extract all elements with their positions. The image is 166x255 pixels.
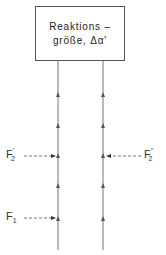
box-text-line1: Reaktions –: [49, 20, 111, 34]
label-sup: ': [13, 147, 14, 154]
f1-arrowhead-icon: [51, 216, 56, 220]
f2-prime-arrowhead-icon: [51, 154, 56, 158]
label-base: F: [6, 210, 13, 222]
reaction-quantity-box: Reaktions – größe, Δα': [35, 6, 125, 61]
label-sub: 2: [11, 155, 15, 162]
box-text-line2: größe, Δα': [53, 34, 107, 48]
f2-double-prime-arrowhead-icon: [106, 154, 111, 158]
label-f1: F1: [6, 210, 17, 224]
label-sup: '': [151, 147, 154, 154]
label-f2-prime: F'2: [6, 147, 15, 162]
label-sub: 1: [13, 217, 17, 224]
label-sub: 2: [148, 155, 152, 162]
label-f2-double-prime: F''2: [144, 147, 152, 162]
